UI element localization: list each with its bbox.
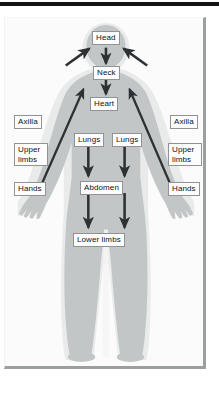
label-hands-right: Hands xyxy=(168,182,200,196)
label-upper-limbs-right: Upper limbs xyxy=(168,143,202,166)
label-head: Head xyxy=(92,31,120,45)
label-neck: Neck xyxy=(93,66,120,80)
label-upper-limbs-left: Upper limbs xyxy=(14,143,48,166)
label-axilla-left: Axilla xyxy=(14,115,42,129)
label-lower-limbs: Lower limbs xyxy=(73,233,125,247)
label-abdomen: Abdomen xyxy=(80,181,123,195)
label-axilla-right: Axilla xyxy=(170,115,198,129)
anatomy-figure-panel: Head Neck Heart Lungs Lungs Abdomen Lowe… xyxy=(4,17,206,369)
label-lungs-left: Lungs xyxy=(74,133,104,147)
label-heart: Heart xyxy=(90,97,118,111)
top-rule-divider xyxy=(0,2,219,6)
label-hands-left: Hands xyxy=(14,182,46,196)
label-lungs-right: Lungs xyxy=(112,133,142,147)
